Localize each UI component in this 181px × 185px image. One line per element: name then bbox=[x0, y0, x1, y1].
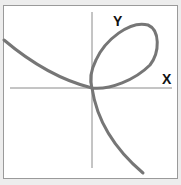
x-axis-label: X bbox=[162, 71, 172, 87]
curve-diagram: Y X bbox=[0, 0, 181, 185]
folium-curve bbox=[4, 24, 157, 173]
y-axis-label: Y bbox=[113, 13, 123, 29]
